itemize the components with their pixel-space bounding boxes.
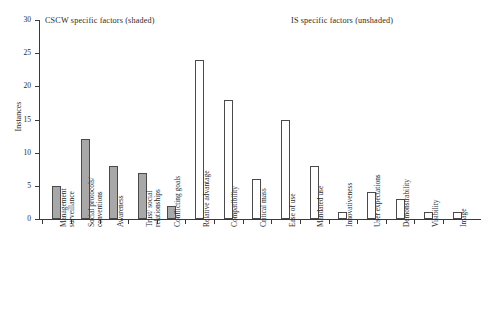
x-axis-tick-mark — [443, 220, 444, 224]
x-axis-category-label: Demonstrability — [403, 141, 411, 227]
x-axis-category-label: Critical mass — [260, 141, 268, 227]
x-axis-tick-mark — [243, 220, 244, 224]
y-axis-tick-mark — [35, 53, 39, 54]
x-axis-category-label: Awareness — [117, 141, 125, 227]
y-axis-tick-mark — [35, 186, 39, 187]
annotation-cscw-specific-factors: CSCW specific factors (shaded) — [45, 16, 155, 25]
x-axis-tick-mark — [414, 220, 415, 224]
x-axis-category-label: Management surveillance — [60, 141, 77, 227]
x-axis-tick-mark — [357, 220, 358, 224]
y-axis-tick-mark — [35, 120, 39, 121]
x-axis-category-label: Relative advantage — [203, 141, 211, 227]
y-axis-tick-label: 0 — [13, 215, 31, 223]
x-axis-category-label: Compatibility — [231, 141, 239, 227]
x-axis-category-label: Visibility — [432, 141, 440, 227]
y-axis-tick-label: 25 — [13, 49, 31, 57]
x-axis-category-label: Innovativeness — [346, 141, 354, 227]
x-axis-category-label: Ease of use — [289, 141, 297, 227]
x-axis-tick-mark — [42, 220, 43, 224]
x-axis-category-label: Trust/ social relationships — [146, 141, 163, 227]
y-axis-tick-mark — [35, 20, 39, 21]
x-axis-tick-mark — [185, 220, 186, 224]
y-axis-tick-mark — [35, 153, 39, 154]
x-axis-tick-mark — [329, 220, 330, 224]
y-axis-tick-label: 20 — [13, 82, 31, 90]
x-axis-tick-mark — [214, 220, 215, 224]
x-axis-tick-mark — [128, 220, 129, 224]
annotation-is-specific-factors: IS specific factors (unshaded) — [291, 16, 393, 25]
x-axis-tick-mark — [386, 220, 387, 224]
y-axis-tick-label: 5 — [13, 182, 31, 190]
x-axis-tick-mark — [271, 220, 272, 224]
x-axis-category-label: Conflicting goals — [174, 141, 182, 227]
x-axis-category-label: Image — [460, 141, 468, 227]
x-axis-category-label: User expectations — [374, 141, 382, 227]
x-axis-category-label: Mandated use — [317, 141, 325, 227]
x-axis-tick-mark — [300, 220, 301, 224]
y-axis-tick-label: 10 — [13, 149, 31, 157]
y-axis-tick-label: 30 — [13, 16, 31, 24]
y-axis-tick-label: 15 — [13, 116, 31, 124]
bar-chart-figure: CSCW specific factors (shaded) IS specif… — [0, 0, 499, 321]
y-axis-tick-mark — [35, 86, 39, 87]
x-axis-category-label: Social protocols/ conventions — [88, 141, 105, 227]
y-axis-line — [39, 20, 40, 219]
